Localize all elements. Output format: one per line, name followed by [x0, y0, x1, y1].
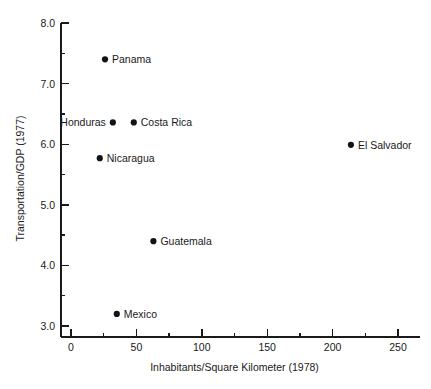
plot-canvas: 3.04.05.06.07.08.0 050100150200250 Panam…	[0, 0, 431, 389]
x-tick-label: 100	[193, 341, 211, 353]
data-point-label: Panama	[112, 53, 151, 65]
scatter-plot-figure: 3.04.05.06.07.08.0 050100150200250 Panam…	[0, 0, 431, 389]
x-tick-label: 0	[68, 341, 74, 353]
data-point[interactable]: Costa Rica	[131, 116, 193, 128]
y-tick-label: 8.0	[40, 17, 55, 29]
data-point-label: Guatemala	[160, 235, 212, 247]
data-point-marker[interactable]	[97, 155, 103, 161]
data-point-label: Honduras	[60, 116, 106, 128]
x-tick-label: 50	[131, 341, 143, 353]
data-point-marker[interactable]	[110, 119, 116, 125]
y-tick-label: 4.0	[40, 259, 55, 271]
data-point[interactable]: El Salvador	[348, 139, 412, 151]
data-point[interactable]: Mexico	[114, 308, 158, 320]
data-points-group: PanamaHondurasCosta RicaNicaraguaEl Salv…	[60, 53, 412, 320]
x-axis-title: Inhabitants/Square Kilometer (1978)	[150, 361, 319, 373]
y-tick-label: 6.0	[40, 138, 55, 150]
data-point-label: Costa Rica	[141, 116, 193, 128]
x-axis-tick-labels: 050100150200250	[68, 341, 407, 353]
data-point-marker[interactable]	[150, 238, 156, 244]
x-tick-label: 150	[258, 341, 276, 353]
data-point-label: Mexico	[124, 308, 157, 320]
y-axis-title: Transportation/GDP (1977)	[14, 115, 26, 241]
x-axis-ticks	[71, 329, 398, 337]
x-tick-label: 200	[324, 341, 342, 353]
data-point-marker[interactable]	[131, 119, 137, 125]
y-tick-label: 7.0	[40, 78, 55, 90]
y-axis-ticks	[61, 23, 69, 326]
y-tick-label: 3.0	[40, 320, 55, 332]
data-point-label: El Salvador	[358, 139, 412, 151]
data-point-marker[interactable]	[114, 311, 120, 317]
y-tick-label: 5.0	[40, 199, 55, 211]
data-point[interactable]: Honduras	[60, 116, 116, 128]
data-point[interactable]: Guatemala	[150, 235, 212, 247]
data-point[interactable]: Panama	[102, 53, 151, 65]
x-tick-label: 250	[389, 341, 407, 353]
axes-group	[61, 23, 420, 337]
data-point-marker[interactable]	[348, 142, 354, 148]
y-axis-tick-labels: 3.04.05.06.07.08.0	[40, 17, 55, 332]
data-point-label: Nicaragua	[107, 152, 155, 164]
data-point-marker[interactable]	[102, 56, 108, 62]
data-point[interactable]: Nicaragua	[97, 152, 155, 164]
